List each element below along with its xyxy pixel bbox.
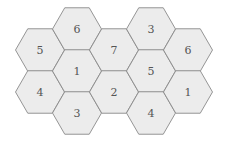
hex-number-label: 1 <box>74 65 81 78</box>
hex-tiles: 546137235461 <box>16 8 213 134</box>
hex-number-label: 5 <box>148 65 155 78</box>
hex-number-label: 4 <box>148 107 155 120</box>
hex-number-label: 4 <box>37 86 44 99</box>
hex-tile-board: 546137235461 <box>0 0 228 146</box>
hex-number-label: 5 <box>37 44 44 57</box>
hex-number-label: 2 <box>111 86 118 99</box>
hex-number-label: 1 <box>185 86 192 99</box>
hex-number-label: 6 <box>185 44 192 57</box>
hex-number-label: 3 <box>74 107 81 120</box>
hex-number-label: 3 <box>148 23 155 36</box>
hex-number-label: 7 <box>111 44 118 57</box>
hex-number-label: 6 <box>74 23 81 36</box>
